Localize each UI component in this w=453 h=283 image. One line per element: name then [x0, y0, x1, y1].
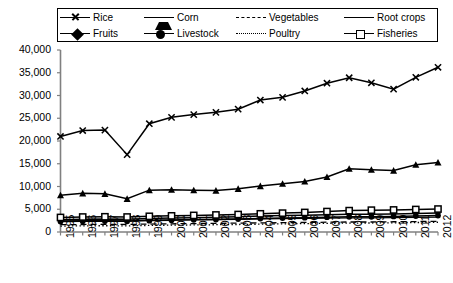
- y-axis-tick-label: 0: [5, 226, 51, 237]
- data-point: [435, 64, 441, 70]
- data-point: [168, 213, 174, 219]
- x-axis-tick-label: 2004: [264, 215, 275, 238]
- data-point: [391, 214, 397, 220]
- x-axis-tick-label: 1997: [109, 215, 120, 238]
- y-axis-tick-label: 20,000: [5, 135, 51, 146]
- y-axis-tick-label: 40,000: [5, 44, 51, 55]
- y-axis-tick-label: 25,000: [5, 112, 51, 123]
- data-point: [413, 206, 419, 212]
- x-axis-tick-label: 2011: [420, 215, 431, 238]
- data-point: [435, 206, 441, 212]
- x-axis-tick-label: 1996: [87, 215, 98, 238]
- data-point: [324, 208, 330, 214]
- data-point: [279, 210, 285, 216]
- y-axis-tick-label: 10,000: [5, 181, 51, 192]
- data-point: [80, 214, 86, 220]
- x-axis-tick-label: 1998: [131, 215, 142, 238]
- x-axis-tick-label: 2006: [309, 215, 320, 238]
- data-point: [191, 212, 197, 218]
- x-axis-tick-label: 2008: [353, 215, 364, 238]
- x-axis-tick-label: 2003: [242, 215, 253, 238]
- y-axis-tick-label: 5,000: [5, 203, 51, 214]
- y-axis-tick-label: 30,000: [5, 90, 51, 101]
- x-axis-tick-label: 1995: [65, 215, 76, 238]
- data-point: [57, 214, 63, 220]
- series-corn: [57, 159, 442, 202]
- data-point: [413, 213, 419, 219]
- x-axis-tick-label: 2009: [375, 215, 386, 238]
- series-line: [61, 67, 439, 154]
- y-axis-tick-label: 15,000: [5, 158, 51, 169]
- data-point: [346, 208, 352, 214]
- data-point: [413, 74, 419, 80]
- x-axis-tick-label: 2010: [398, 215, 409, 238]
- x-axis-tick-label: 2007: [331, 215, 342, 238]
- y-axis-tick-label: 35,000: [5, 67, 51, 78]
- data-point: [390, 207, 396, 213]
- x-axis-tick-label: 2000: [176, 215, 187, 238]
- x-axis-tick-label: 2001: [198, 215, 209, 238]
- x-axis-tick-label: 2012: [442, 215, 453, 238]
- data-point: [368, 207, 374, 213]
- data-point: [302, 209, 308, 215]
- series-rice: [57, 64, 441, 158]
- series-line: [61, 162, 439, 198]
- x-axis-tick-label: 1999: [153, 215, 164, 238]
- x-axis-tick-label: 2002: [220, 215, 231, 238]
- data-point: [124, 152, 130, 158]
- x-axis-tick-label: 2005: [287, 215, 298, 238]
